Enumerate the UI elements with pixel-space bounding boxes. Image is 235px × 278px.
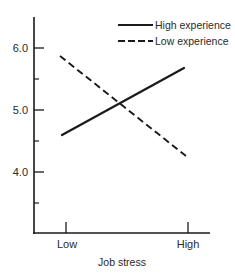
interaction-line-chart: 6.0 5.0 4.0 Low High Job stress High exp… <box>0 0 235 278</box>
x-tick-label-high: High <box>177 238 200 250</box>
series-high-experience-line <box>62 68 184 135</box>
legend-label-low-experience: Low experience <box>155 35 229 47</box>
legend: High experience Low experience <box>118 19 231 47</box>
y-tick-label-6: 6.0 <box>13 42 28 54</box>
y-tick-label-5: 5.0 <box>13 104 28 116</box>
y-tick-label-4: 4.0 <box>13 166 28 178</box>
x-tick-label-low: Low <box>57 238 77 250</box>
series-low-experience-line <box>60 56 186 156</box>
x-axis-title: Job stress <box>98 256 146 268</box>
legend-label-high-experience: High experience <box>155 19 231 31</box>
